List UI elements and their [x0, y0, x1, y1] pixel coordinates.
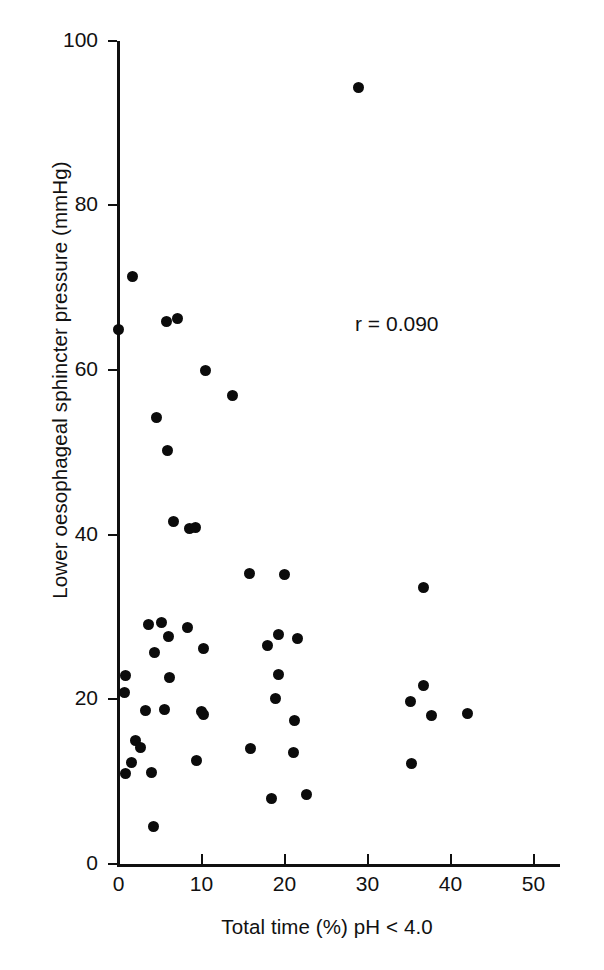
- data-point: [196, 706, 207, 717]
- y-tick-100: [108, 40, 117, 42]
- data-point: [172, 313, 183, 324]
- data-point: [245, 743, 256, 754]
- y-axis-tick-labels: 020406080100: [34, 0, 98, 970]
- x-tick-label-0: 0: [89, 872, 149, 896]
- data-point: [292, 633, 303, 644]
- x-tick-30: [367, 854, 369, 864]
- data-point: [163, 631, 174, 642]
- data-point: [140, 705, 151, 716]
- y-axis-line: [117, 41, 120, 867]
- data-point: [119, 687, 130, 698]
- data-point: [200, 365, 211, 376]
- x-tick-label-50: 50: [504, 872, 564, 896]
- y-tick-label-80: 80: [36, 192, 98, 216]
- correlation-annotation: r = 0.090: [355, 312, 438, 336]
- data-point: [146, 767, 157, 778]
- data-point: [164, 672, 175, 683]
- data-point: [418, 582, 429, 593]
- data-point: [405, 696, 416, 707]
- data-point: [148, 821, 159, 832]
- y-tick-label-20: 20: [36, 686, 98, 710]
- y-tick-label-60: 60: [36, 357, 98, 381]
- data-point: [244, 568, 255, 579]
- data-point: [288, 747, 299, 758]
- data-point: [161, 316, 172, 327]
- data-point: [162, 445, 173, 456]
- data-point: [462, 708, 473, 719]
- data-point: [273, 629, 284, 640]
- data-point: [406, 758, 417, 769]
- x-tick-label-30: 30: [338, 872, 398, 896]
- data-point: [418, 680, 429, 691]
- data-point: [135, 742, 146, 753]
- data-point: [182, 622, 193, 633]
- x-tick-20: [284, 854, 286, 864]
- x-axis-line: [117, 864, 560, 867]
- scatter-plot-figure: Lower oesophageal sphincter pressure (mm…: [0, 0, 604, 970]
- data-point: [266, 793, 277, 804]
- data-point: [126, 757, 137, 768]
- data-point: [120, 670, 131, 681]
- data-point: [168, 516, 179, 527]
- data-point: [273, 669, 284, 680]
- data-point: [151, 412, 162, 423]
- data-point: [184, 523, 195, 534]
- data-point: [159, 704, 170, 715]
- data-point: [120, 768, 131, 779]
- y-tick-label-100: 100: [36, 28, 98, 52]
- data-point: [353, 82, 364, 93]
- data-point: [198, 643, 209, 654]
- y-tick-0: [108, 863, 117, 865]
- x-tick-10: [201, 854, 203, 864]
- data-point: [426, 710, 437, 721]
- y-tick-20: [108, 698, 117, 700]
- x-axis-title: Total time (%) pH < 4.0: [117, 915, 537, 939]
- x-tick-label-40: 40: [421, 872, 481, 896]
- x-tick-50: [533, 854, 535, 864]
- data-point: [191, 755, 202, 766]
- data-point: [190, 522, 201, 533]
- x-tick-label-10: 10: [172, 872, 232, 896]
- data-point: [262, 640, 273, 651]
- data-point: [198, 709, 209, 720]
- data-point: [227, 390, 238, 401]
- data-point: [127, 271, 138, 282]
- y-tick-label-40: 40: [36, 522, 98, 546]
- y-tick-40: [108, 534, 117, 536]
- data-point: [270, 693, 281, 704]
- data-point: [279, 569, 290, 580]
- data-point: [156, 617, 167, 628]
- y-tick-80: [108, 204, 117, 206]
- data-point: [143, 619, 154, 630]
- data-point: [130, 735, 141, 746]
- data-point: [149, 647, 160, 658]
- x-tick-0: [118, 854, 120, 864]
- data-point: [301, 789, 312, 800]
- x-tick-40: [450, 854, 452, 864]
- y-tick-60: [108, 369, 117, 371]
- data-point: [289, 715, 300, 726]
- x-tick-label-20: 20: [255, 872, 315, 896]
